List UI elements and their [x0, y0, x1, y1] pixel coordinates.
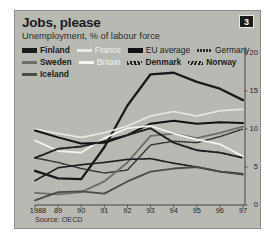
chart-plot	[15, 11, 260, 228]
legend-item-iceland[interactable]: Iceland	[22, 70, 69, 79]
legend-label: Britain	[97, 58, 121, 67]
legend-item-eu-average[interactable]: EU average	[128, 46, 190, 55]
x-axis-tick-label: 1988	[30, 207, 46, 215]
legend-label: France	[95, 46, 121, 55]
x-axis-tick-label: 94	[170, 207, 178, 215]
legend-swatch-icon	[79, 61, 94, 65]
chart-subtitle: Unemployment, % of labour force	[22, 31, 253, 42]
x-axis-tick-label: 91	[100, 207, 108, 215]
legend-swatch-icon	[188, 61, 203, 65]
y-axis-labels: 05101520	[242, 51, 258, 201]
legend-row: FinlandFranceEU averageGermany	[22, 45, 237, 56]
series-line-finland	[35, 73, 243, 179]
legend-swatch-icon	[197, 49, 212, 52]
legend-item-sweden[interactable]: Sweden	[22, 58, 72, 67]
y-axis-tick-label: 15	[250, 87, 258, 95]
series-line-denmark	[35, 128, 243, 158]
legend-swatch-icon	[127, 61, 142, 65]
x-axis-tick-label: 93	[146, 207, 154, 215]
x-axis-tick-label: 92	[123, 207, 131, 215]
y-axis-tick-label: 5	[254, 163, 258, 171]
legend-row: SwedenBritainDenmarkNorway	[22, 57, 237, 68]
y-axis-tick-label: 10	[250, 125, 258, 133]
series-line-britain	[35, 126, 243, 156]
legend-swatch-icon	[22, 48, 37, 53]
page-title: Jobs, please	[22, 16, 253, 30]
legend-label: Finland	[40, 46, 70, 55]
series-line-eu-average	[35, 121, 243, 144]
x-axis-tick-label: 90	[77, 207, 85, 215]
series-line-germany	[35, 129, 243, 173]
legend-label: EU average	[146, 46, 190, 55]
series-line-sweden	[35, 127, 243, 195]
legend-row: Iceland	[22, 69, 237, 80]
legend-swatch-icon	[77, 49, 92, 53]
legend-item-finland[interactable]: Finland	[22, 46, 70, 55]
x-axis-tick-label: 89	[54, 207, 62, 215]
legend-label: Norway	[206, 58, 236, 67]
chart-source: Source: OECD	[35, 215, 83, 224]
legend-label: Sweden	[40, 58, 72, 67]
series-line-iceland	[35, 167, 243, 200]
legend-item-britain[interactable]: Britain	[79, 58, 121, 67]
x-axis-tick-label: 95	[193, 207, 201, 215]
legend-swatch-icon	[22, 61, 37, 65]
x-axis-tick-label: 96	[216, 207, 224, 215]
legend-swatch-icon	[128, 48, 143, 53]
chart-figure: Jobs, please Unemployment, % of labour f…	[14, 10, 261, 229]
legend-item-norway[interactable]: Norway	[188, 58, 236, 67]
legend-item-denmark[interactable]: Denmark	[127, 58, 181, 67]
legend-label: Iceland	[40, 70, 69, 79]
y-axis-tick-label: 20	[250, 49, 258, 57]
status-badge: 3	[239, 15, 254, 28]
chart-header: Jobs, please Unemployment, % of labour f…	[15, 11, 260, 42]
legend-item-france[interactable]: France	[77, 46, 121, 55]
x-axis-tick-label: 97	[239, 207, 247, 215]
legend-swatch-icon	[22, 73, 37, 77]
series-line-norway	[35, 159, 243, 181]
chart-legend: FinlandFranceEU averageGermanySwedenBrit…	[22, 45, 237, 80]
legend-label: Denmark	[145, 58, 181, 67]
series-line-france	[35, 109, 243, 137]
